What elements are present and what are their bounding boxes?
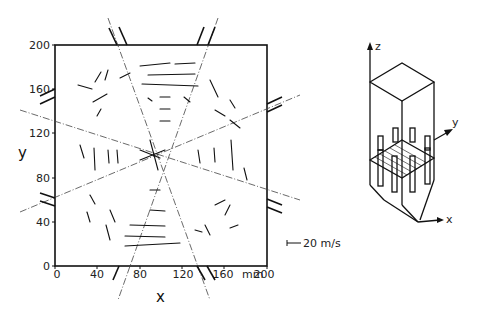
velocity-vectors [78,63,247,246]
velocity-scale [287,240,301,246]
jet-centerlines [20,18,300,300]
schematic-y-label: y [452,116,459,129]
x-tick-200: 200 [254,268,275,281]
y-tick-200: 200 [29,39,50,52]
diagram-canvas: 0 40 80 120 160 200 y 0 40 80 120 160 mm… [0,0,478,314]
schematic-x-label: x [446,213,453,226]
x-tick-160: 160 [213,268,234,281]
y-tick-120: 120 [29,127,50,140]
x-tick-0: 0 [54,268,61,281]
vessel-schematic [370,46,448,222]
x-tick-80: 80 [133,268,147,281]
x-tick-120: 120 [173,268,194,281]
x-tick-40: 40 [90,268,104,281]
x-axis-arrow-icon [437,217,444,223]
x-axis-label: x [156,288,165,306]
nozzles [40,27,282,280]
y-tick-0: 0 [43,260,50,273]
schematic-z-label: z [375,40,381,53]
y-tick-80: 80 [36,172,50,185]
y-axis-arrow-icon [444,129,453,136]
y-tick-160: 160 [29,83,50,96]
velocity-scale-label: 20 m/s [303,237,341,250]
y-tick-40: 40 [36,216,50,229]
y-axis-label: y [18,144,27,162]
z-axis-arrow-icon [367,42,373,50]
